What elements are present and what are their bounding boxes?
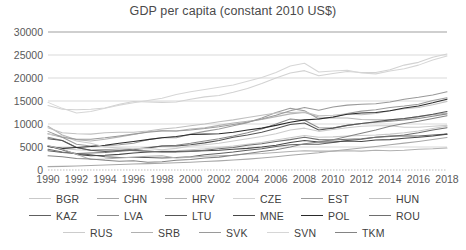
legend-item-ltu[interactable]: LTU	[165, 210, 233, 222]
legend-swatch-ltu	[165, 215, 187, 216]
legend-label-svn: SVN	[294, 227, 316, 239]
series-line-hun	[48, 101, 447, 134]
legend-label-srb: SRB	[158, 227, 180, 239]
legend-row-1: BGRCHNHRVCZEESTHUN	[0, 190, 466, 207]
legend-row-3: RUSSRBSVKSVNTKM	[0, 224, 466, 241]
legend-label-cze: CZE	[260, 193, 282, 205]
y-axis-tick-labels: 050001000015000200002500030000	[14, 26, 43, 176]
legend-swatch-rus	[63, 232, 85, 233]
y-tick-30000: 30000	[14, 26, 43, 38]
x-tick-1998: 1998	[150, 173, 174, 185]
legend-label-rou: ROU	[396, 210, 420, 222]
legend-label-ltu: LTU	[192, 210, 212, 222]
x-tick-2012: 2012	[350, 173, 374, 185]
legend-label-est: EST	[328, 193, 349, 205]
legend-label-svk: SVK	[226, 227, 248, 239]
x-axis-tick-labels: 1990199219941996199820002002200420062008…	[36, 173, 459, 185]
legend-label-pol: POL	[328, 210, 350, 222]
legend-label-mne: MNE	[260, 210, 284, 222]
legend-item-mne[interactable]: MNE	[233, 210, 301, 222]
chart-title: GDP per capita (constant 2010 US$)	[0, 4, 466, 18]
legend-item-hun[interactable]: HUN	[369, 193, 437, 205]
x-tick-2016: 2016	[407, 173, 431, 185]
legend-swatch-bgr	[29, 198, 51, 199]
legend-swatch-hrv	[165, 198, 187, 199]
y-tick-5000: 5000	[20, 141, 44, 153]
x-tick-1996: 1996	[122, 173, 146, 185]
legend-swatch-lva	[97, 215, 119, 216]
series-line-svn	[48, 56, 447, 113]
legend-item-bgr[interactable]: BGR	[29, 193, 97, 205]
legend-swatch-tkm	[335, 232, 357, 233]
x-tick-1990: 1990	[36, 173, 60, 185]
legend-label-chn: CHN	[124, 193, 147, 205]
legend-label-bgr: BGR	[56, 193, 79, 205]
legend-label-lva: LVA	[124, 210, 143, 222]
legend-item-pol[interactable]: POL	[301, 210, 369, 222]
x-tick-1994: 1994	[93, 173, 117, 185]
legend-swatch-srb	[131, 232, 153, 233]
y-tick-20000: 20000	[14, 72, 43, 84]
legend-item-kaz[interactable]: KAZ	[29, 210, 97, 222]
y-tick-10000: 10000	[14, 118, 43, 130]
legend-label-tkm: TKM	[362, 227, 385, 239]
series-line-svk	[48, 92, 447, 139]
chart-legend: BGRCHNHRVCZEESTHUNKAZLVALTUMNEPOLROURUSS…	[0, 190, 466, 241]
x-tick-2002: 2002	[207, 173, 231, 185]
x-tick-2000: 2000	[179, 173, 203, 185]
legend-label-hrv: HRV	[192, 193, 215, 205]
y-tick-15000: 15000	[14, 95, 43, 107]
legend-item-rou[interactable]: ROU	[369, 210, 437, 222]
line-chart-plot: 050001000015000200002500030000 199019921…	[0, 0, 466, 190]
legend-swatch-pol	[301, 215, 323, 216]
x-tick-2018: 2018	[435, 173, 459, 185]
legend-label-rus: RUS	[90, 227, 113, 239]
legend-item-svn[interactable]: SVN	[267, 227, 335, 239]
x-tick-2008: 2008	[293, 173, 317, 185]
legend-swatch-hun	[369, 198, 391, 199]
legend-item-rus[interactable]: RUS	[63, 227, 131, 239]
legend-item-est[interactable]: EST	[301, 193, 369, 205]
x-tick-2004: 2004	[236, 173, 260, 185]
legend-item-cze[interactable]: CZE	[233, 193, 301, 205]
legend-swatch-est	[301, 198, 323, 199]
y-tick-25000: 25000	[14, 49, 43, 61]
x-tick-1992: 1992	[65, 173, 89, 185]
legend-label-kaz: KAZ	[56, 210, 77, 222]
legend-swatch-rou	[369, 215, 391, 216]
legend-item-svk[interactable]: SVK	[199, 227, 267, 239]
legend-item-hrv[interactable]: HRV	[165, 193, 233, 205]
legend-item-lva[interactable]: LVA	[97, 210, 165, 222]
legend-item-tkm[interactable]: TKM	[335, 227, 403, 239]
legend-item-chn[interactable]: CHN	[97, 193, 165, 205]
legend-label-hun: HUN	[396, 193, 419, 205]
legend-swatch-kaz	[29, 215, 51, 216]
chart-container: GDP per capita (constant 2010 US$) 05000…	[0, 0, 466, 250]
legend-swatch-svk	[199, 232, 221, 233]
legend-item-srb[interactable]: SRB	[131, 227, 199, 239]
legend-swatch-chn	[97, 198, 119, 199]
x-tick-2006: 2006	[264, 173, 288, 185]
data-series-layer	[48, 54, 447, 167]
x-tick-2010: 2010	[321, 173, 345, 185]
x-tick-2014: 2014	[378, 173, 402, 185]
legend-swatch-svn	[267, 232, 289, 233]
legend-swatch-cze	[233, 198, 255, 199]
legend-swatch-mne	[233, 215, 255, 216]
legend-row-2: KAZLVALTUMNEPOLROU	[0, 207, 466, 224]
